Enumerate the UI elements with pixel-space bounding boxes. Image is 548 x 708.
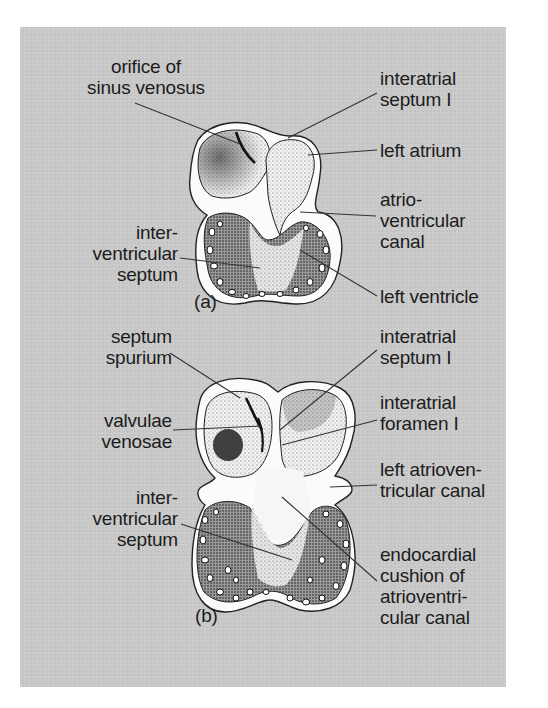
label-endocardial-cushion: endocardial cushion of atrioventri- cula… xyxy=(380,544,476,628)
label-interatrial-foramen: interatrial foramen I xyxy=(380,392,458,434)
label-left-atrium: left atrium xyxy=(380,140,461,161)
label-interventricular-septum-b: inter- ventricular septum xyxy=(70,487,178,550)
caption-a: (a) xyxy=(194,291,217,312)
label-interatrial-septum-b: interatrial septum I xyxy=(380,326,456,368)
label-interventricular-septum-a: inter- ventricular septum xyxy=(70,222,178,285)
label-left-ventricle: left ventricle xyxy=(380,286,479,307)
caption-b: (b) xyxy=(195,605,218,626)
label-interatrial-septum-a: interatrial septum I xyxy=(380,68,456,110)
label-atrioventricular-canal: atrio- ventricular canal xyxy=(380,189,465,252)
label-septum-spurium: septum spurium xyxy=(80,326,172,368)
label-orifice-sinus-venosus: orifice of sinus venosus xyxy=(66,56,226,98)
label-left-av-canal: left atrioven- tricular canal xyxy=(380,459,485,501)
heart-b xyxy=(192,378,355,612)
label-valvulae-venosae: valvulae venosae xyxy=(80,410,172,452)
